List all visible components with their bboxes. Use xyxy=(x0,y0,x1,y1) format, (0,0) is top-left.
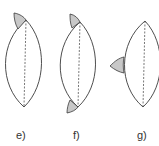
figure-f-bottom-cap xyxy=(67,100,78,113)
figure-e-lens xyxy=(5,20,41,107)
figure-e-label: e) xyxy=(16,129,26,141)
figure-f-top-cap xyxy=(70,14,80,28)
figure-e: e) xyxy=(5,13,41,141)
figure-g-label: g) xyxy=(137,129,147,141)
figure-g-axis xyxy=(143,21,145,107)
figure-f-axis xyxy=(78,22,80,107)
figure-g-lens xyxy=(124,21,159,107)
figure-e-top-cap xyxy=(14,13,26,29)
lens-diagram: e) f) g) xyxy=(0,0,159,146)
figure-e-axis xyxy=(24,20,26,107)
figure-f: f) xyxy=(60,14,95,141)
figure-g: g) xyxy=(110,21,159,141)
figure-g-side-wedge xyxy=(110,57,124,73)
figure-f-lens xyxy=(60,22,95,107)
figure-f-label: f) xyxy=(73,129,80,141)
